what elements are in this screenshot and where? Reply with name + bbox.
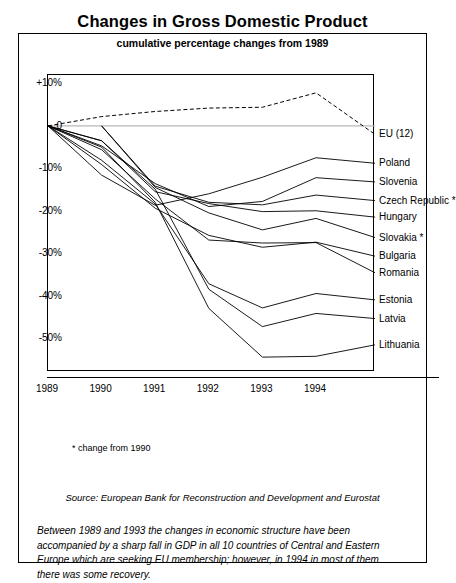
chart-caption: Between 1989 and 1993 the changes in eco… [37,524,387,582]
chart-subtitle: cumulative percentage changes from 1989 [0,37,445,49]
series-label: Romania [379,266,419,277]
series-label: Slovenia [379,175,417,186]
chart-source: Source: European Bank for Reconstruction… [0,492,445,503]
series-line [48,126,375,207]
y-tick-label: +10% [36,77,62,88]
series-label: Latvia [379,312,406,323]
series-line [48,126,375,273]
y-tick-label: -30% [39,247,62,258]
x-tick-label: 1993 [250,383,272,394]
series-label: Poland [379,157,410,168]
series-line [48,126,375,327]
series-label: Slovakia * [379,231,423,242]
y-tick-label: -40% [39,289,62,300]
y-tick-label: -10% [39,162,62,173]
x-tick-label: 1994 [304,383,326,394]
series-line [48,126,375,205]
x-tick-label: 1990 [89,383,111,394]
series-line [48,93,375,135]
chart-footnote: * change from 1990 [72,443,151,453]
chart-title: Changes in Gross Domestic Product [0,12,445,31]
x-tick-label: 1989 [36,383,58,394]
series-label: EU (12) [379,128,413,139]
x-axis-line [47,377,439,378]
series-line [102,126,375,205]
series-line [48,126,375,357]
plot-area [47,74,374,371]
series-line [102,126,375,238]
series-label: Czech Republic * [379,194,456,205]
series-label: Lithuania [379,338,420,349]
x-tick-label: 1992 [197,383,219,394]
x-tick-label: 1991 [143,383,165,394]
y-tick-label: -20% [39,204,62,215]
series-label: Bulgaria [379,250,416,261]
chart-lines [48,75,375,372]
y-tick-label: -50% [39,332,62,343]
series-label: Hungary [379,211,417,222]
series-line [48,126,375,308]
series-label: Estonia [379,293,412,304]
y-tick-label: 0 [56,119,62,130]
